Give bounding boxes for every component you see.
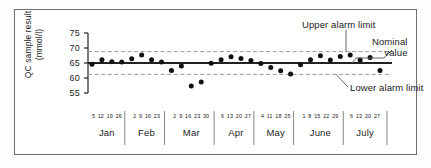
qc-control-chart-figure: QC sample result (mmol/l) 5560657075 5 1… xyxy=(0,0,431,168)
data-point xyxy=(169,68,174,73)
leader-lower-alarm-limit xyxy=(336,74,348,87)
data-point xyxy=(268,65,273,70)
data-point xyxy=(99,57,104,62)
data-point xyxy=(318,53,323,58)
data-point xyxy=(159,60,164,65)
data-point xyxy=(199,79,204,84)
y-axis xyxy=(84,33,88,93)
data-point xyxy=(90,62,95,67)
data-point xyxy=(258,61,263,66)
data-point xyxy=(288,72,293,77)
data-point xyxy=(278,68,283,73)
data-point xyxy=(109,59,114,64)
data-point xyxy=(209,61,214,66)
data-point xyxy=(119,60,124,65)
data-point xyxy=(189,84,194,89)
data-point xyxy=(328,58,333,63)
data-point xyxy=(149,57,154,62)
data-point xyxy=(248,58,253,63)
data-point xyxy=(129,56,134,61)
data-point xyxy=(348,52,353,57)
data-point xyxy=(179,64,184,69)
data-point xyxy=(298,62,303,67)
data-point xyxy=(308,57,313,62)
data-point xyxy=(229,54,234,59)
data-point xyxy=(338,54,343,59)
month-separators xyxy=(125,111,387,145)
data-point xyxy=(378,68,383,73)
annotation-upper-alarm-limit: Upper alarm limit xyxy=(302,19,376,30)
annotation-nominal-line2: value xyxy=(372,47,408,58)
annotation-nominal-value: Nominal value xyxy=(372,36,408,58)
data-points xyxy=(90,52,383,88)
data-point xyxy=(219,57,224,62)
annotation-lower-alarm-limit: Lower alarm limit xyxy=(350,82,424,93)
data-point xyxy=(238,56,243,61)
data-point xyxy=(139,52,144,57)
annotation-nominal-line1: Nominal xyxy=(372,36,408,47)
